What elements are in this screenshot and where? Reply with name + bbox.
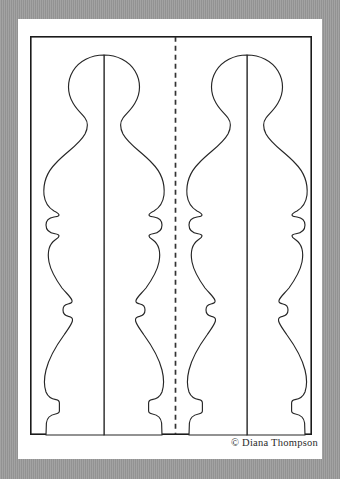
- pattern-sheet-canvas: © Diana Thompson: [0, 0, 340, 479]
- pattern-drawing: [0, 0, 340, 479]
- finial-left: [44, 55, 164, 435]
- finial-right: [187, 55, 307, 435]
- copyright-credit: © Diana Thompson: [222, 436, 318, 449]
